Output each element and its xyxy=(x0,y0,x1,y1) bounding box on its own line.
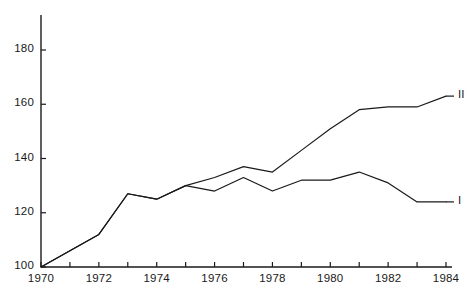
x-axis-tick-label: 1970 xyxy=(11,272,71,284)
y-axis-tick-label: 180 xyxy=(0,42,34,54)
series-label-ii: II xyxy=(458,88,464,100)
x-axis-tick-label: 1976 xyxy=(185,272,245,284)
y-axis-tick-label: 100 xyxy=(0,259,34,271)
x-axis-tick-label: 1980 xyxy=(300,272,360,284)
x-axis-tick-label: 1982 xyxy=(358,272,418,284)
series-label-leaders xyxy=(446,96,454,202)
series-label-i: I xyxy=(458,194,461,206)
x-axis-tick-label: 1972 xyxy=(69,272,129,284)
x-axis-tick-label: 1974 xyxy=(127,272,187,284)
x-axis-ticks xyxy=(41,262,446,267)
series-lines xyxy=(41,96,446,267)
x-axis-tick-label: 1984 xyxy=(416,272,469,284)
y-axis-ticks xyxy=(41,50,46,267)
y-axis-tick-label: 120 xyxy=(0,205,34,217)
series-line-i xyxy=(41,172,446,267)
x-axis-tick-label: 1978 xyxy=(242,272,302,284)
y-axis-tick-label: 140 xyxy=(0,151,34,163)
y-axis-tick-label: 160 xyxy=(0,96,34,108)
